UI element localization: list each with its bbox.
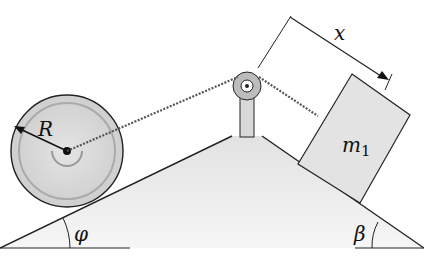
beta-label: β (353, 222, 366, 246)
distance-dimension (258, 16, 392, 90)
phi-label: φ (74, 222, 88, 246)
mass-subscript: 1 (361, 142, 371, 160)
mass-symbol: m (342, 133, 361, 157)
cable-right (259, 77, 318, 116)
distance-label: x (334, 21, 345, 45)
radius-label: R (37, 117, 53, 141)
diagram-canvas: R x m1 φ β (0, 0, 424, 273)
